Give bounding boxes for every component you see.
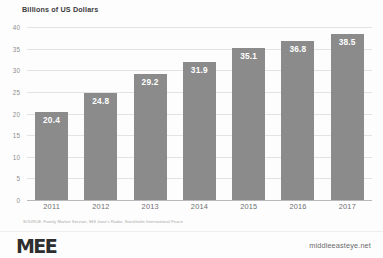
bar-value-label: 24.8 (84, 96, 117, 106)
bar-value-label: 38.5 (331, 37, 364, 47)
bar-group[interactable]: 24.8 (76, 27, 125, 200)
y-axis-tick-label: 30 (13, 67, 20, 74)
y-axis-tick-label: 5 (16, 175, 20, 182)
x-axis-tick-label: 2015 (224, 202, 273, 211)
chart-title: Billions of US Dollars (22, 5, 98, 14)
x-axis-tick-label: 2013 (126, 202, 175, 211)
bar[interactable]: 38.5 (331, 34, 364, 201)
bar-value-label: 36.8 (281, 44, 314, 54)
bar-group[interactable]: 31.9 (175, 27, 224, 200)
x-axis-tick-label: 2017 (323, 202, 372, 211)
y-axis-tick-label: 20 (13, 110, 20, 117)
bar-group[interactable]: 38.5 (323, 27, 372, 200)
x-axis-tick-label: 2011 (27, 202, 76, 211)
y-axis: 0510152025303540 (0, 27, 24, 200)
x-axis-tick-label: 2014 (175, 202, 224, 211)
bar[interactable]: 31.9 (183, 62, 216, 200)
source-note: SOURCE: Family Market Servian, IHS Jane'… (23, 219, 183, 224)
axis-baseline (27, 200, 372, 201)
bar[interactable]: 29.2 (134, 74, 167, 200)
mee-logo: MEE (16, 235, 56, 257)
bar[interactable]: 35.1 (232, 48, 265, 200)
y-axis-tick-label: 0 (16, 197, 20, 204)
bar-group[interactable]: 20.4 (27, 27, 76, 200)
site-url-label: middleeasteye.net (309, 241, 371, 250)
bar-value-label: 35.1 (232, 51, 265, 61)
bar[interactable]: 20.4 (35, 112, 68, 200)
bars-layer: 20.424.829.231.935.136.838.5 (27, 27, 372, 200)
footer: MEE middleeasteye.net (0, 232, 383, 258)
y-axis-tick-label: 15 (13, 132, 20, 139)
x-axis-tick-label: 2016 (273, 202, 322, 211)
chart-container: Billions of US Dollars 0510152025303540 … (0, 0, 383, 258)
y-axis-tick-label: 25 (13, 88, 20, 95)
bar-group[interactable]: 36.8 (273, 27, 322, 200)
bar-value-label: 20.4 (35, 115, 68, 125)
bar-value-label: 31.9 (183, 65, 216, 75)
x-axis: 2011201220132014201520162017 (27, 202, 372, 216)
bar-group[interactable]: 35.1 (224, 27, 273, 200)
bar[interactable]: 36.8 (281, 41, 314, 200)
bar[interactable]: 24.8 (84, 93, 117, 200)
bar-group[interactable]: 29.2 (126, 27, 175, 200)
y-axis-tick-label: 10 (13, 153, 20, 160)
x-axis-tick-label: 2012 (76, 202, 125, 211)
bar-value-label: 29.2 (134, 77, 167, 87)
y-axis-tick-label: 40 (13, 24, 20, 31)
y-axis-tick-label: 35 (13, 45, 20, 52)
